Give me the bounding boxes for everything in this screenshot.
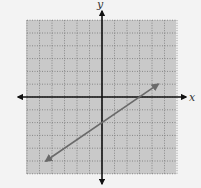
x-axis-label: x	[189, 91, 196, 104]
coordinate-plane: x y	[0, 0, 201, 188]
y-axis-label: y	[96, 0, 104, 11]
